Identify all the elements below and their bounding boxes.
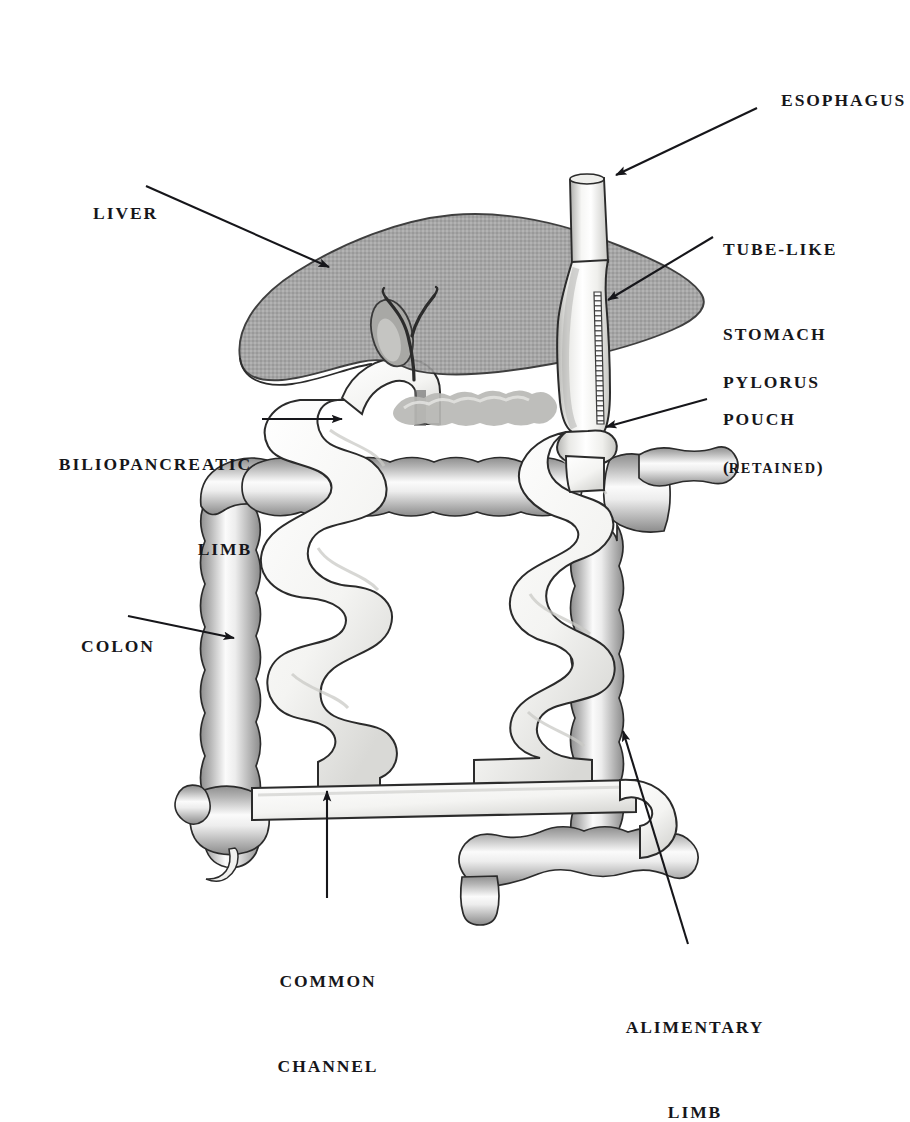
label-colon-text: COLON	[81, 636, 155, 656]
label-liver-text: LIVER	[93, 203, 158, 223]
label-pylorus-paren-close: )	[817, 457, 823, 477]
label-biliopancreatic-limb: BILIOPANCREATIC LIMB	[0, 393, 252, 620]
label-colon: COLON	[56, 604, 155, 689]
label-al-line2: LIMB	[582, 1098, 808, 1122]
label-pylorus-line2: (RETAINED)	[723, 453, 823, 481]
rectum	[461, 876, 499, 925]
label-al-line1: ALIMENTARY	[582, 1013, 808, 1041]
label-esophagus-text: ESOPHAGUS	[781, 90, 906, 110]
label-bp-line1: BILIOPANCREATIC	[0, 450, 252, 478]
label-pylorus-retained: RETAINED	[729, 460, 817, 476]
esophagus	[570, 174, 608, 266]
label-pylorus-line1: PYLORUS	[723, 368, 823, 396]
label-esophagus: ESOPHAGUS	[756, 58, 906, 143]
label-stomach-line1: TUBE-LIKE	[723, 235, 837, 263]
label-bp-line2: LIMB	[0, 535, 252, 563]
label-liver: LIVER	[68, 171, 158, 256]
label-alimentary-limb: ALIMENTARY LIMB	[582, 956, 808, 1122]
label-cc-line1: COMMON	[210, 967, 446, 995]
label-common-channel: COMMON CHANNEL	[210, 910, 446, 1122]
label-pylorus: PYLORUS (RETAINED)	[723, 311, 823, 538]
label-cc-line2: CHANNEL	[210, 1052, 446, 1080]
